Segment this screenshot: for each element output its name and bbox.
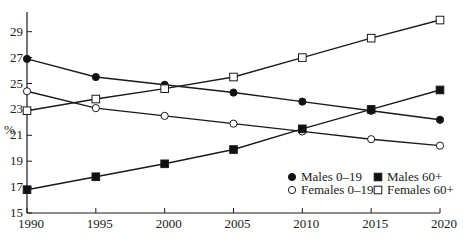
x-tick-label: 2020	[431, 216, 457, 231]
series-line	[27, 91, 440, 145]
legend-label: Females 0–19	[301, 182, 374, 197]
y-tick-label: 17	[10, 179, 24, 194]
series-females-60-	[23, 16, 444, 114]
filled-square-marker	[367, 106, 375, 114]
y-tick-label: 25	[10, 76, 23, 91]
filled-square-marker	[92, 173, 100, 181]
open-circle-marker	[368, 136, 375, 143]
open-square-marker	[92, 95, 100, 103]
x-tick-label: 1990	[18, 216, 44, 231]
filled-circle-marker	[230, 89, 237, 96]
x-tick-label: 1995	[87, 216, 113, 231]
open-circle-icon	[288, 186, 295, 193]
open-square-icon	[374, 186, 382, 194]
series-line	[27, 20, 440, 111]
x-tick-label: 2015	[362, 216, 388, 231]
legend: Males 0–19Males 60+Females 0–19Females 6…	[288, 169, 454, 197]
legend-label: Females 60+	[387, 182, 454, 197]
open-square-marker	[436, 16, 444, 24]
open-square-marker	[230, 73, 238, 81]
filled-circle-marker	[92, 73, 99, 80]
y-tick-label: 27	[10, 50, 24, 65]
series-lines	[23, 16, 444, 193]
filled-square-icon	[374, 173, 382, 181]
x-tick-label: 2000	[156, 216, 182, 231]
x-tick-label: 2005	[225, 216, 251, 231]
x-axis-ticks: 1990199520002005201020152020	[18, 208, 457, 231]
y-axis-label: %	[4, 122, 15, 137]
series-males-0-19	[23, 55, 443, 123]
open-square-marker	[367, 34, 375, 42]
open-circle-marker	[230, 120, 237, 127]
x-tick-label: 2010	[293, 216, 319, 231]
legend-item: Females 0–19	[288, 182, 373, 197]
axes	[27, 12, 440, 213]
open-circle-marker	[92, 105, 99, 112]
filled-circle-marker	[436, 116, 443, 123]
filled-circle-icon	[288, 173, 295, 180]
y-tick-label: 19	[10, 153, 23, 168]
y-tick-label: 29	[10, 24, 23, 39]
open-square-marker	[23, 107, 31, 115]
legend-item: Females 60+	[374, 182, 454, 197]
open-circle-marker	[436, 142, 443, 149]
open-circle-marker	[161, 112, 168, 119]
filled-square-marker	[161, 160, 169, 168]
open-square-marker	[299, 54, 307, 62]
y-tick-label: 23	[10, 101, 23, 116]
filled-square-marker	[230, 146, 238, 154]
filled-square-marker	[436, 86, 444, 94]
filled-circle-marker	[299, 98, 306, 105]
open-circle-marker	[23, 88, 30, 95]
filled-circle-marker	[23, 55, 30, 62]
open-square-marker	[161, 85, 169, 93]
line-chart: 1517192123252729 19901995200020052010201…	[0, 0, 468, 242]
series-females-0-19	[23, 88, 443, 150]
filled-square-marker	[299, 125, 307, 133]
filled-square-marker	[23, 186, 31, 194]
